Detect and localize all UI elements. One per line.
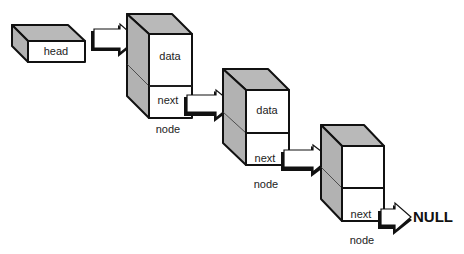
node-3-caption: node — [350, 234, 374, 246]
node-1-caption: node — [156, 123, 180, 135]
head-label: head — [44, 45, 68, 57]
node-2-caption: node — [254, 178, 278, 190]
node-1: data next node — [127, 14, 192, 135]
node-1-data-label: data — [159, 50, 181, 62]
linked-list-diagram: head data next node data next node — [0, 0, 464, 254]
null-terminator-label: NULL — [413, 208, 453, 225]
node-1-next-label: next — [158, 94, 179, 106]
node-2: data next node — [223, 69, 289, 190]
node-3-next-label: next — [351, 208, 372, 220]
node-2-data-label: data — [256, 104, 278, 116]
node-3: next node — [321, 125, 384, 246]
node-2-next-label: next — [255, 152, 276, 164]
node-3-data-cell — [342, 146, 384, 188]
head-box: head — [12, 25, 85, 62]
